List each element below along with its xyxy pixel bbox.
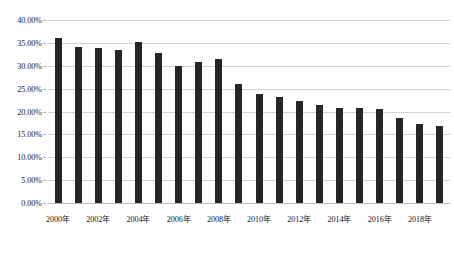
y-tick-label: 25.00% <box>17 84 42 93</box>
bar-2013年 <box>316 105 323 203</box>
y-tick-mark <box>43 89 46 90</box>
bar-2005年 <box>155 53 162 203</box>
x-axis: 2000年2002年2004年2006年2008年2010年2012年2014年… <box>48 206 450 232</box>
gridline-0.00pct <box>48 203 450 204</box>
bar-2012年 <box>296 101 303 203</box>
bar-2019年 <box>436 126 443 203</box>
bar-2010年 <box>256 94 263 203</box>
bar-2006年 <box>175 66 182 203</box>
x-tick-label: 2012年 <box>287 212 311 224</box>
y-tick-label: 5.00% <box>21 176 42 185</box>
y-tick-label: 30.00% <box>17 61 42 70</box>
x-tick-label: 2006年 <box>167 212 191 224</box>
y-tick-label: 0.00% <box>21 199 42 208</box>
bar-2018年 <box>416 124 423 203</box>
y-tick-mark <box>43 157 46 158</box>
y-tick-mark <box>43 203 46 204</box>
bar-2003年 <box>115 50 122 203</box>
y-tick-label: 40.00% <box>17 16 42 25</box>
y-tick-label: 35.00% <box>17 38 42 47</box>
bars-group <box>48 20 450 203</box>
x-tick-label: 2018年 <box>408 212 432 224</box>
bar-2001年 <box>75 47 82 203</box>
y-tick-mark <box>43 66 46 67</box>
bar-2015年 <box>356 108 363 203</box>
y-tick-label: 15.00% <box>17 130 42 139</box>
x-tick-label: 2002年 <box>86 212 110 224</box>
x-tick-label: 2016年 <box>368 212 392 224</box>
bar-chart: 0.00%5.00%10.00%15.00%20.00%25.00%30.00%… <box>0 0 454 266</box>
bar-2011年 <box>276 97 283 203</box>
x-tick-label: 2004年 <box>126 212 150 224</box>
y-tick-mark <box>43 20 46 21</box>
x-tick-label: 2008年 <box>207 212 231 224</box>
y-tick-mark <box>43 112 46 113</box>
x-tick-label: 2000年 <box>46 212 70 224</box>
x-tick-label: 2014年 <box>327 212 351 224</box>
bar-2007年 <box>195 62 202 203</box>
y-tick-label: 20.00% <box>17 107 42 116</box>
bar-2000年 <box>55 38 62 203</box>
bar-2002年 <box>95 48 102 203</box>
x-tick-label: 2010年 <box>247 212 271 224</box>
bar-2009年 <box>235 84 242 203</box>
y-tick-mark <box>43 43 46 44</box>
bar-2008年 <box>215 59 222 203</box>
plot-area <box>48 20 450 203</box>
bar-2004年 <box>135 42 142 203</box>
bar-2014年 <box>336 108 343 203</box>
y-tick-mark <box>43 134 46 135</box>
y-axis: 0.00%5.00%10.00%15.00%20.00%25.00%30.00%… <box>0 0 46 266</box>
bar-2017年 <box>396 118 403 203</box>
y-tick-label: 10.00% <box>17 153 42 162</box>
bar-2016年 <box>376 109 383 203</box>
y-tick-mark <box>43 180 46 181</box>
